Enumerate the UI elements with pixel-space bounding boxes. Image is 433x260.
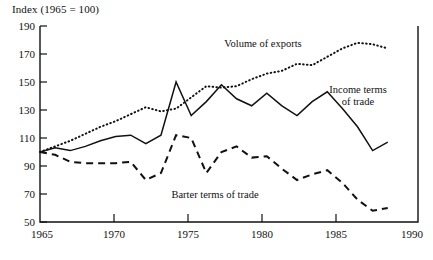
y-tick-label: 150 [19, 76, 36, 88]
x-tick-label: 1970 [103, 228, 126, 240]
annotation-income-terms-line1: Income terms [329, 84, 386, 95]
y-tick-label: 170 [19, 48, 36, 60]
annotation-income-terms-line2: of trade [342, 96, 375, 107]
series-volume-of-exports [40, 43, 388, 152]
y-tick-label: 130 [19, 104, 36, 116]
annotation-barter-terms-of-trade: Barter terms of trade [171, 189, 259, 200]
y-tick-label: 110 [19, 132, 36, 144]
x-tick-label: 1980 [251, 228, 274, 240]
x-axis-ticks [114, 214, 336, 222]
y-axis-ticks [40, 26, 47, 222]
y-tick-label: 70 [24, 188, 36, 200]
chart-figure: Index (1965 = 100) 190 170 150 130 110 9… [0, 0, 433, 260]
x-axis-labels: 1965 1970 1975 1980 1985 1990 [31, 228, 424, 240]
x-tick-label: 1990 [401, 228, 424, 240]
x-tick-label: 1965 [31, 228, 54, 240]
y-axis-labels: 190 170 150 130 110 90 70 50 [19, 20, 36, 228]
annotation-volume-of-exports: Volume of exports [224, 38, 301, 49]
y-tick-label: 190 [19, 20, 36, 32]
x-tick-label: 1985 [325, 228, 348, 240]
chart-canvas: 190 170 150 130 110 90 70 50 1965 1970 1… [0, 0, 433, 260]
x-tick-label: 1975 [177, 228, 200, 240]
y-tick-label: 50 [24, 216, 36, 228]
y-tick-label: 90 [24, 160, 36, 172]
